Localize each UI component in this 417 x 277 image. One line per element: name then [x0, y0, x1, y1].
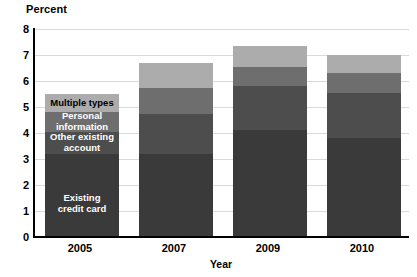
plot-area: Existingcredit cardOther existingaccount… [33, 29, 409, 237]
bar-segment [233, 67, 307, 87]
bar-segment [327, 73, 401, 93]
bar-segment [233, 86, 307, 130]
y-tick-label: 3 [5, 154, 29, 165]
bar-segment [233, 130, 307, 237]
x-tick-label: 2009 [221, 241, 315, 255]
y-axis-line [33, 28, 35, 238]
bar-group-2005: Existingcredit cardOther existingaccount… [45, 29, 119, 237]
bar-group-2010 [327, 29, 401, 237]
y-tick-label: 7 [5, 50, 29, 61]
x-axis-title: Year [33, 258, 409, 270]
bar-segment [139, 88, 213, 114]
y-axis-tick-labels: 012345678 [2, 29, 29, 237]
bar-group-2007 [139, 29, 213, 237]
x-tick-label: 2005 [33, 241, 127, 255]
x-axis-line [33, 236, 409, 238]
bars-layer: Existingcredit cardOther existingaccount… [33, 29, 409, 237]
bar-segment [139, 114, 213, 154]
bar-group-2009 [233, 29, 307, 237]
bar-segment [139, 63, 213, 88]
y-tick-label: 6 [5, 76, 29, 87]
y-tick-label: 0 [5, 232, 29, 243]
bar-segment [139, 154, 213, 237]
bar-segment [45, 112, 119, 132]
y-tick-label: 2 [5, 180, 29, 191]
bar-segment [233, 46, 307, 67]
bar-segment [327, 93, 401, 139]
bar-segment [45, 154, 119, 237]
bar-segment [327, 138, 401, 237]
stacked-bar-chart: Percent 012345678 Existingcredit cardOth… [0, 0, 417, 277]
bar-segment [45, 132, 119, 154]
x-tick-label: 2010 [315, 241, 409, 255]
y-axis-title: Percent [26, 3, 67, 15]
y-tick-label: 8 [5, 24, 29, 35]
bar-segment [327, 55, 401, 73]
y-tick-label: 4 [5, 128, 29, 139]
x-tick-label: 2007 [127, 241, 221, 255]
bar-segment [45, 94, 119, 112]
x-axis-tick-labels: 2005200720092010 [33, 241, 409, 257]
y-tick-label: 5 [5, 102, 29, 113]
y-tick-label: 1 [5, 206, 29, 217]
